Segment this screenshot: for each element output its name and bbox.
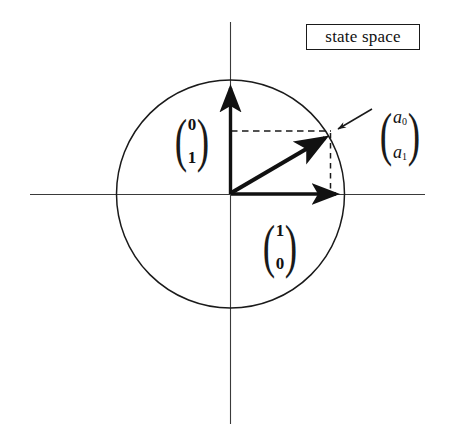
right-paren-icon: ) [408, 110, 420, 159]
state-space-diagram [0, 0, 452, 434]
state-space-caption-text: state space [325, 27, 400, 47]
state-vector-a-label: ( a0 a1 ) [372, 88, 428, 182]
vector-entry-top: 0 [188, 116, 197, 133]
right-paren-icon: ) [197, 116, 209, 165]
vector-entry-top: a0 [393, 108, 407, 127]
left-paren-icon: ( [263, 222, 275, 271]
basis-vector-e1-label: ( 1 0 ) [256, 206, 304, 288]
vector-column: a0 a1 [393, 108, 407, 162]
vector-column: 1 0 [276, 222, 285, 272]
left-paren-icon: ( [175, 116, 187, 165]
state-space-caption-box: state space [306, 24, 420, 50]
state-space-figure: ( 0 1 ) ( 1 0 ) ( a0 a1 ) state space [0, 0, 452, 434]
var-base: a [393, 107, 402, 127]
vector-entry-bottom: 1 [188, 149, 197, 166]
vector-entry-bottom: a1 [393, 143, 407, 162]
var-subscript: 1 [402, 151, 407, 162]
basis-vector-e2-label: ( 0 1 ) [168, 101, 216, 181]
vector-column: 0 1 [188, 116, 197, 166]
vector-entry-top: 1 [276, 222, 285, 239]
var-base: a [393, 142, 402, 162]
left-paren-icon: ( [380, 110, 392, 159]
figure-background [0, 0, 452, 434]
vector-entry-bottom: 0 [276, 255, 285, 272]
right-paren-icon: ) [285, 222, 297, 271]
var-subscript: 0 [402, 116, 407, 127]
